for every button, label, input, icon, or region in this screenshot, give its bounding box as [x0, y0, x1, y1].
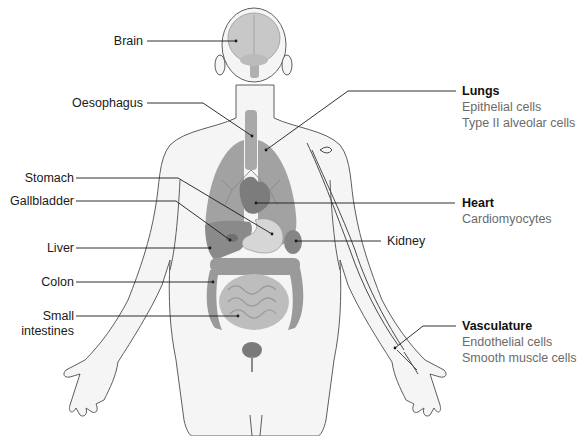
label-gallbladder: Gallbladder — [10, 194, 74, 209]
vasculature-cell-1: Endothelial cells — [462, 334, 577, 350]
label-liver: Liver — [47, 241, 74, 256]
vasculature-title: Vasculature — [462, 318, 577, 334]
kidney-organ — [284, 230, 302, 254]
label-kidney: Kidney — [387, 234, 425, 249]
label-oesophagus: Oesophagus — [72, 96, 143, 111]
group-lungs: Lungs Epithelial cells Type II alveolar … — [462, 83, 575, 131]
label-colon: Colon — [41, 275, 74, 290]
small-intestines-organ — [219, 274, 289, 330]
lungs-cell-2: Type II alveolar cells — [462, 115, 575, 131]
label-small-intestines-line1: Small — [21, 309, 74, 324]
heart-cell-1: Cardiomyocytes — [462, 211, 552, 227]
label-stomach: Stomach — [25, 171, 74, 186]
label-small-intestines-line2: intestines — [21, 324, 74, 339]
lungs-title: Lungs — [462, 83, 575, 99]
label-brain: Brain — [114, 34, 143, 49]
group-heart: Heart Cardiomyocytes — [462, 195, 552, 227]
vasculature-cell-2: Smooth muscle cells — [462, 350, 577, 366]
heart-title: Heart — [462, 195, 552, 211]
oesophagus-organ — [245, 110, 257, 170]
group-vasculature: Vasculature Endothelial cells Smooth mus… — [462, 318, 577, 366]
label-small-intestines: Small intestines — [21, 309, 74, 339]
lungs-cell-1: Epithelial cells — [462, 99, 575, 115]
bladder-organ — [242, 342, 262, 358]
